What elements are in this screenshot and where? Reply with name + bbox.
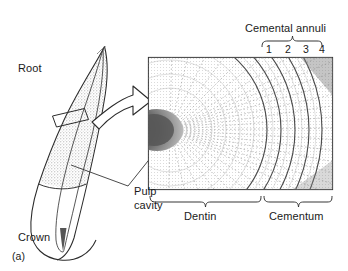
label-root: Root <box>18 62 42 74</box>
annulus-number-1: 1 <box>263 43 275 55</box>
label-crown: Crown <box>18 231 50 243</box>
label-cemental-annuli: Cemental annuli <box>245 22 326 34</box>
cementum-brace <box>264 196 332 207</box>
pulp-cavity-core <box>134 114 174 146</box>
figure-tooth-cemental-annuli: Root Crown Pulp cavity Cemental annuli 1… <box>0 0 348 271</box>
annulus-number-4: 4 <box>316 43 328 55</box>
panel-id: (a) <box>12 250 25 262</box>
dentin-brace <box>150 196 261 207</box>
label-dentin: Dentin <box>184 210 216 222</box>
label-cementum: Cementum <box>269 210 324 222</box>
figure-artwork <box>0 0 348 271</box>
pulp-canal-tip <box>60 228 67 251</box>
label-pulp-cavity-line1: Pulp <box>134 185 156 197</box>
tooth-illustration <box>30 40 120 260</box>
annulus-number-3: 3 <box>300 43 312 55</box>
label-pulp-cavity-line2: cavity <box>134 199 163 211</box>
annulus-number-2: 2 <box>282 43 294 55</box>
